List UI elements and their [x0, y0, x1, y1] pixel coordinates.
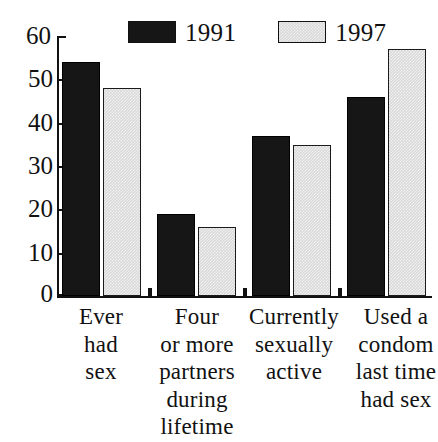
category-label-used-a-condom: Used a condom last time had sex: [340, 303, 438, 413]
x-axis-line: [57, 296, 432, 298]
x-tick-group-1: [148, 288, 152, 296]
category-label-line: Four: [142, 303, 252, 331]
category-label-line: last time: [340, 358, 438, 386]
y-tick-label-10: 10: [28, 240, 53, 265]
y-tick-label-50: 50: [28, 66, 53, 91]
bars-layer: [57, 36, 432, 296]
y-tick-label-20: 20: [28, 196, 53, 221]
x-tick-group-3: [338, 288, 342, 296]
bar-1991-ever-had-sex: [62, 62, 100, 296]
plot-area: 60 50 40 30 20 10 0: [57, 36, 432, 296]
category-label-line: had: [49, 331, 153, 359]
category-label-currently-sexually-active: Currently sexually active: [237, 303, 351, 386]
bar-1997-ever-had-sex: [103, 88, 141, 296]
category-label-line: Ever: [49, 303, 153, 331]
y-tick-label-30: 30: [28, 153, 53, 178]
bar-1991-four-or-more-partners: [157, 214, 195, 296]
y-tick-label-60: 60: [26, 23, 51, 48]
bar-1997-four-or-more-partners: [198, 227, 236, 296]
category-label-line: partners: [142, 358, 252, 386]
category-label-line: active: [237, 358, 351, 386]
category-label-line: sex: [49, 358, 153, 386]
category-label-line: lifetime: [142, 413, 252, 441]
bar-1991-used-a-condom: [347, 97, 385, 296]
category-label-four-or-more-partners: Four or more partners during lifetime: [142, 303, 252, 441]
bar-1997-currently-sexually-active: [293, 145, 331, 296]
category-label-line: condom: [340, 331, 438, 359]
category-label-line: Currently: [237, 303, 351, 331]
y-tick-label-40: 40: [28, 110, 53, 135]
category-label-line: had sex: [340, 386, 438, 414]
category-label-line: Used a: [340, 303, 438, 331]
category-label-line: or more: [142, 331, 252, 359]
bar-1997-used-a-condom: [388, 49, 426, 296]
category-label-line: during: [142, 386, 252, 414]
category-label-line: sexually: [237, 331, 351, 359]
x-tick-group-2: [243, 288, 247, 296]
category-label-ever-had-sex: Ever had sex: [49, 303, 153, 386]
bar-1991-currently-sexually-active: [252, 136, 290, 296]
category-labels: Ever had sex Four or more partners durin…: [57, 303, 435, 438]
bar-chart: 1991 1997 60 50 40 30 20 10 0: [0, 0, 438, 442]
